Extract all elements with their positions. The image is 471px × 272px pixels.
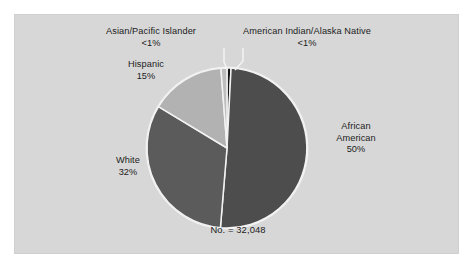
slice-label-white: White 32% bbox=[88, 155, 168, 178]
slice-label-african-american: African American 50% bbox=[310, 121, 402, 156]
slice-label-american-indian-alaska-native: American Indian/Alaska Native <1% bbox=[221, 26, 393, 49]
pie-slice-african-american[interactable] bbox=[220, 68, 306, 228]
slice-label-hispanic: Hispanic 15% bbox=[100, 59, 192, 82]
pie-chart: Asian/Pacific Islander <1% American Indi… bbox=[15, 15, 460, 255]
chart-panel: Asian/Pacific Islander <1% American Indi… bbox=[14, 14, 459, 254]
chart-total-annotation: No. = 32,048 bbox=[175, 224, 301, 236]
pie-slice-group bbox=[146, 67, 309, 230]
leader-line-american-indian bbox=[235, 48, 243, 70]
slice-label-asian-pacific-islander: Asian/Pacific Islander <1% bbox=[81, 26, 221, 49]
figure-container: Asian/Pacific Islander <1% American Indi… bbox=[0, 0, 471, 272]
leader-line-group bbox=[224, 48, 243, 70]
